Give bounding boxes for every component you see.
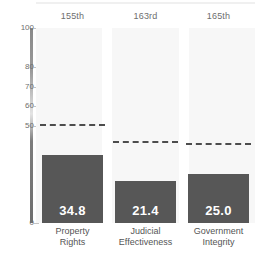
category-line: Property: [37, 226, 108, 237]
reference-lines-layer: [36, 28, 255, 223]
rank-label-government-integrity: 165th: [182, 9, 255, 27]
category-line: Effectiveness: [110, 237, 181, 248]
y-tick-label: 70: [4, 82, 34, 92]
y-tick-label: 100: [4, 23, 34, 33]
category-line: Integrity: [183, 237, 254, 248]
category-label-row: Property Rights Judicial Effectiveness G…: [36, 226, 255, 248]
reference-line: [113, 141, 177, 143]
reference-line-slot: [109, 28, 182, 223]
reference-line: [186, 143, 250, 145]
rank-header-row: 155th 163rd 165th: [36, 9, 255, 27]
plot-area: 34.821.425.0: [36, 28, 255, 223]
rank-label-judicial-effectiveness: 163rd: [109, 9, 182, 27]
score-bar-chart: 155th 163rd 165th 100807060500 34.821.42…: [0, 0, 255, 259]
y-tick-label: 50: [4, 121, 34, 131]
category-line: Judicial: [110, 226, 181, 237]
y-tick-label: 60: [4, 101, 34, 111]
category-line: Government: [183, 226, 254, 237]
rank-label-property-rights: 155th: [36, 9, 109, 27]
y-tick-label: 80: [4, 62, 34, 72]
category-label-government-integrity: Government Integrity: [182, 226, 255, 248]
reference-line: [40, 124, 104, 126]
y-tick-label: 0: [4, 218, 34, 228]
top-divider: [36, 2, 255, 4]
category-label-property-rights: Property Rights: [36, 226, 109, 248]
category-line: Rights: [37, 237, 108, 248]
category-label-judicial-effectiveness: Judicial Effectiveness: [109, 226, 182, 248]
reference-line-slot: [36, 28, 109, 223]
reference-line-slot: [182, 28, 255, 223]
y-tick-mark: [34, 223, 39, 224]
